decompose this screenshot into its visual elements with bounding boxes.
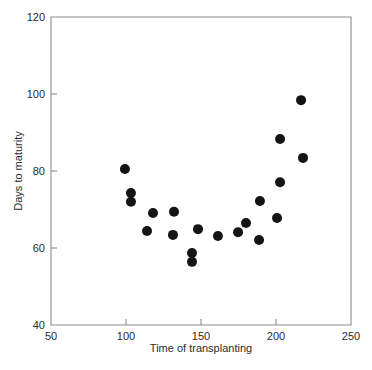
data-point: [233, 227, 243, 237]
data-point: [296, 95, 306, 105]
data-point: [187, 257, 197, 267]
data-point: [148, 208, 158, 218]
data-point: [168, 230, 178, 240]
x-tick-label: 100: [117, 330, 135, 342]
data-point: [272, 213, 282, 223]
x-axis-title: Time of transplanting: [150, 342, 252, 354]
data-point: [126, 188, 136, 198]
y-axis-ticks: [51, 94, 57, 248]
y-tick-label: 40: [33, 319, 45, 331]
data-point: [187, 248, 197, 258]
data-point-series: [120, 95, 308, 267]
data-point: [255, 196, 265, 206]
data-point: [298, 153, 308, 163]
y-axis-tick-labels: 406080100120: [27, 11, 45, 331]
data-point: [142, 226, 152, 236]
scatter-plot-figure: 50100150200250 406080100120 Time of tran…: [0, 0, 372, 370]
data-point: [120, 164, 130, 174]
data-point: [126, 197, 136, 207]
axes-frame: [51, 17, 351, 325]
x-tick-label: 50: [45, 330, 57, 342]
x-tick-label: 150: [192, 330, 210, 342]
x-tick-label: 250: [342, 330, 360, 342]
x-tick-label: 200: [267, 330, 285, 342]
y-tick-label: 60: [33, 242, 45, 254]
data-point: [275, 177, 285, 187]
x-axis-ticks: [126, 319, 276, 325]
plot-frame-border: [51, 17, 351, 325]
data-point: [193, 224, 203, 234]
y-tick-label: 80: [33, 165, 45, 177]
data-point: [241, 218, 251, 228]
y-axis-title: Days to maturity: [12, 131, 24, 211]
x-axis-tick-labels: 50100150200250: [45, 330, 360, 342]
data-point: [275, 134, 285, 144]
data-point: [169, 207, 179, 217]
plot-canvas: 50100150200250 406080100120 Time of tran…: [0, 0, 372, 370]
y-tick-label: 120: [27, 11, 45, 23]
data-point: [254, 235, 264, 245]
data-point: [213, 231, 223, 241]
y-tick-label: 100: [27, 88, 45, 100]
